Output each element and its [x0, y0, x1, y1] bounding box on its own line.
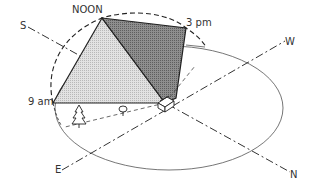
south-label: S — [20, 21, 26, 31]
sun-path-lower-arc — [53, 103, 61, 125]
east-label: E — [55, 165, 61, 175]
three-pm-label: 3 pm — [186, 18, 212, 28]
deciduous-tree-icon — [119, 106, 127, 116]
nine-am-label: 9 am — [28, 97, 53, 107]
noon-label: NOON — [72, 5, 103, 15]
north-label: N — [290, 170, 297, 180]
sun-path-diagram: NOON 3 pm 9 am S W E N — [0, 0, 313, 193]
west-label: W — [285, 37, 295, 47]
